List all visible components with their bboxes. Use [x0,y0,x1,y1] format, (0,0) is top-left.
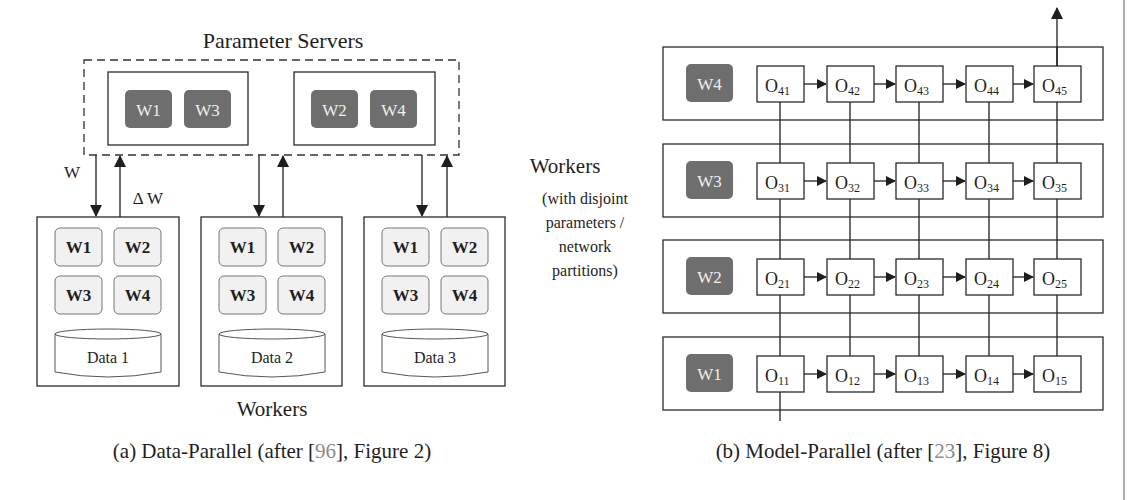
server-chip-label: W3 [195,101,220,120]
worker-chip-label: W1 [230,238,256,257]
worker-chip-label: W2 [697,268,722,287]
worker-chip-label: W4 [125,286,151,305]
worker-node-1: W1 W2 W3 W4 Data 1 [37,217,179,386]
server-chip-label: W4 [381,101,406,120]
worker-chip-label: W1 [697,365,722,384]
worker-chip-label: W2 [289,238,315,257]
server-group-2: W2 W4 [294,72,435,145]
data-shard-label: Data 2 [251,349,293,366]
parameter-servers-title: Parameter Servers [203,28,364,53]
panel-a-data-parallel: Parameter Servers W1 W3 W2 W4 W Δ W [37,28,505,463]
side-label-line: partitions) [552,262,618,280]
worker-row-w3: W3 O31 O32 O33 O34 O35 [663,144,1103,217]
worker-row-w1: W1 O11 O12 O13 O14 O15 [663,337,1103,410]
server-chip-label: W2 [322,101,347,120]
workers-label: Workers [237,397,308,421]
worker-chip-label: W4 [452,286,478,305]
panel-b-model-parallel: Workers (with disjoint parameters / netw… [530,8,1103,463]
figure-canvas: Parameter Servers W1 W3 W2 W4 W Δ W [0,0,1138,500]
worker-chip-label: W4 [697,75,722,94]
caption-b: (b) Model-Parallel (after [23], Figure 8… [716,439,1051,463]
citation-link[interactable]: 96 [315,439,336,463]
worker-node-2: W1 W2 W3 W4 Data 2 [201,217,342,386]
worker-row-w4: W4 O41 O42 O43 O44 O45 [663,47,1103,120]
workers-side-title: Workers [530,154,601,178]
worker-row-w2: W2 O21 O22 O23 O24 O25 [663,240,1103,313]
worker-node-3: W1 W2 W3 W4 Data 3 [364,217,505,386]
citation-link[interactable]: 23 [934,439,955,463]
worker-chip-label: W4 [289,286,315,305]
caption-a: (a) Data-Parallel (after [96], Figure 2) [113,439,431,463]
data-shard-label: Data 3 [414,349,456,366]
server-chip-label: W1 [136,101,161,120]
worker-chip-label: W3 [393,286,419,305]
worker-chip-label: W3 [697,172,722,191]
worker-chip-label: W3 [66,286,92,305]
server-group-1: W1 W3 [108,72,248,145]
worker-chip-label: W3 [230,286,256,305]
data-shard-label: Data 1 [87,349,129,366]
weights-label: W [64,163,81,182]
worker-chip-label: W2 [125,238,151,257]
delta-weights-label: Δ W [133,189,164,208]
side-label-line: (with disjoint [542,190,628,208]
worker-chip-label: W1 [393,238,419,257]
worker-chip-label: W2 [452,238,478,257]
side-label-line: parameters / [546,214,625,232]
worker-chip-label: W1 [66,238,92,257]
side-label-line: network [559,238,611,255]
